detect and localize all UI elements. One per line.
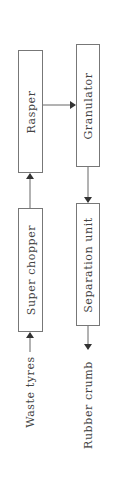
node-separation-unit: Separation unit (76, 203, 100, 326)
output-label: Rubber crumb (82, 361, 95, 449)
node-rasper: Rasper (18, 50, 43, 173)
node-label: Rasper (24, 90, 37, 133)
node-label: Granulator (82, 72, 95, 139)
node-label: Super chopper (24, 225, 37, 315)
node-label: Separation unit (82, 217, 95, 313)
node-granulator: Granulator (76, 44, 100, 167)
node-super-chopper: Super chopper (18, 208, 43, 332)
input-label: Waste tyres (24, 356, 37, 428)
